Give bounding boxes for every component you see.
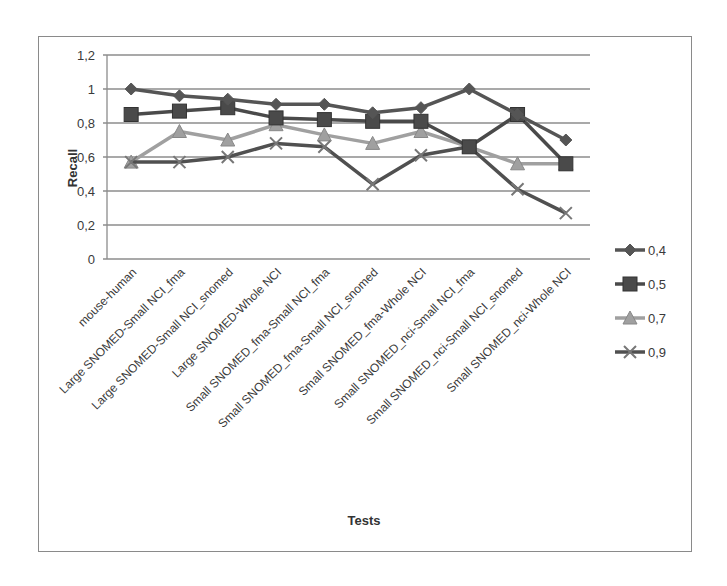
- diamond-marker: [318, 98, 330, 110]
- square-marker: [623, 277, 637, 291]
- data-series: [124, 83, 573, 219]
- legend-item: 0,4: [615, 243, 666, 258]
- legend-item: 0,7: [615, 311, 666, 326]
- diamond-marker: [415, 102, 427, 114]
- square-marker: [462, 140, 476, 154]
- series-0-9: [125, 137, 572, 219]
- diamond-marker: [173, 90, 185, 102]
- line-chart: 00,20,40,60,811,2 mouse-humanLarge SNOME…: [0, 0, 727, 586]
- y-tick-label: 1: [88, 82, 95, 97]
- y-tick-label: 0: [88, 252, 95, 267]
- series-0-4: [125, 83, 572, 146]
- y-axis: 00,20,40,60,811,2: [77, 48, 107, 267]
- diamond-marker: [624, 244, 636, 256]
- legend-label: 0,7: [648, 311, 666, 326]
- square-marker: [414, 114, 428, 128]
- diamond-marker: [270, 98, 282, 110]
- y-tick-label: 1,2: [77, 48, 95, 63]
- diamond-marker: [560, 134, 572, 146]
- x-marker: [512, 183, 524, 195]
- y-tick-label: 0,8: [77, 116, 95, 131]
- x-marker: [560, 207, 572, 219]
- x-marker: [367, 178, 379, 190]
- legend: 0,40,50,70,9: [615, 243, 666, 360]
- diamond-marker: [463, 83, 475, 95]
- legend-item: 0,9: [615, 345, 666, 360]
- legend-item: 0,5: [615, 277, 666, 292]
- legend-label: 0,4: [648, 243, 666, 258]
- series-line: [131, 143, 566, 213]
- square-marker: [124, 108, 138, 122]
- diamond-marker: [125, 83, 137, 95]
- square-marker: [172, 104, 186, 118]
- series-line: [131, 125, 566, 164]
- square-marker: [269, 111, 283, 125]
- legend-label: 0,5: [648, 277, 666, 292]
- legend-label: 0,9: [648, 345, 666, 360]
- series-line: [131, 89, 566, 140]
- y-axis-title: Recall: [65, 149, 80, 187]
- square-marker: [317, 113, 331, 127]
- x-axis-labels: mouse-humanLarge SNOMED-Small NCI_fmaLar…: [56, 265, 573, 431]
- x-axis-title: Tests: [348, 513, 381, 528]
- y-tick-label: 0,2: [77, 218, 95, 233]
- square-marker: [559, 157, 573, 171]
